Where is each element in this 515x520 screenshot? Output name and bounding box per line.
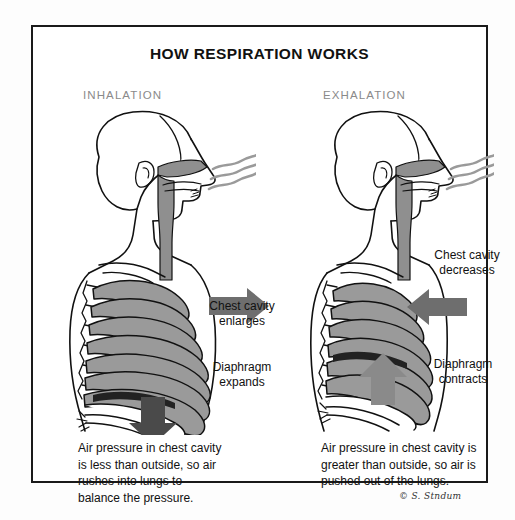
chest-arrow-left [405,287,467,327]
annotation-diaphragm-contracts: Diaphragm contracts [411,357,515,387]
phase-label-inhalation: INHALATION [83,89,162,101]
signature-mark: © S. Stndum [399,491,461,501]
caption-inhalation: Air pressure in chest cavity is less tha… [78,440,278,506]
pelvis [77,411,89,431]
diagram-frame: HOW RESPIRATION WORKS INHALATION EXHALAT… [31,25,488,483]
phase-label-exhalation: EXHALATION [323,89,406,101]
annotation-chest-enlarges: Chest cavity enlarges [187,299,297,329]
annotation-diaphragm-expands: Diaphragm expands [187,360,297,390]
page-title: HOW RESPIRATION WORKS [33,45,486,63]
airflow-lines [209,153,256,189]
airflow-lines [447,153,494,189]
clavicle-2 [341,272,391,283]
pelvis [318,403,330,423]
caption-exhalation: Air pressure in chest cavity is greater … [321,440,515,490]
annotation-chest-decreases: Chest cavity decreases [411,248,515,278]
